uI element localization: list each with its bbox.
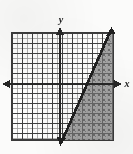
x-axis-left-arrowhead (2, 80, 10, 88)
shaded-region-grid-overlay (12, 33, 113, 140)
shaded-region-group (12, 32, 116, 144)
x-axis-label: x (121, 79, 133, 89)
y-axis-label: y (55, 15, 67, 25)
graph-figure: y x (0, 0, 133, 154)
boundary-line-upper-arrowhead (107, 27, 116, 36)
y-axis-up-arrowhead (56, 27, 64, 35)
